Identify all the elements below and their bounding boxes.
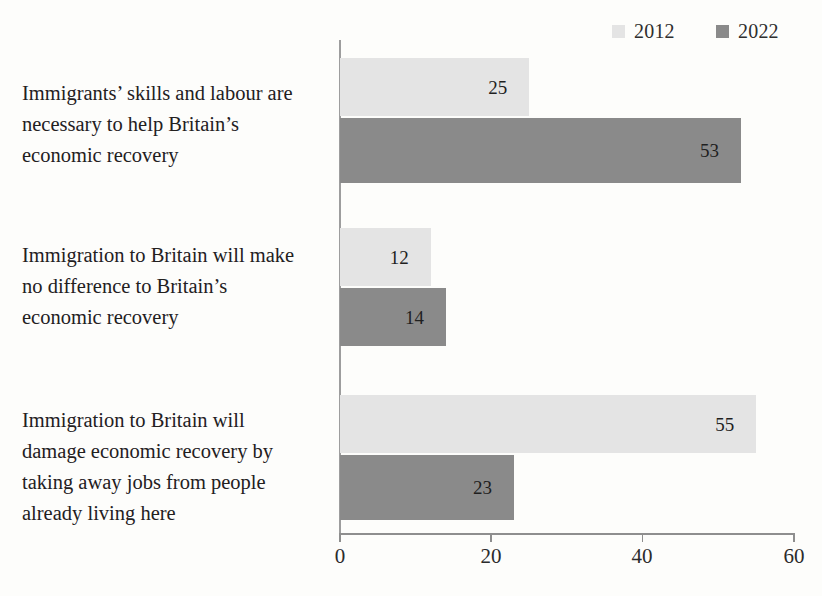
x-axis-line [339, 533, 794, 535]
category-label-2: Immigration to Britain will damage econo… [22, 405, 332, 529]
category-label-1-line-1: no difference to Britain’s [22, 271, 332, 302]
bar-value-2022-category-2: 23 [473, 478, 514, 497]
bar-2012-category-1: 12 [340, 228, 431, 286]
category-label-0-line-1: necessary to help Britain’s [22, 109, 332, 140]
category-label-2-line-1: damage economic recovery by [22, 436, 332, 467]
category-label-2-line-2: taking away jobs from people [22, 467, 332, 498]
plot-area: 0 20 40 60 25 53 12 14 55 23 [339, 40, 794, 535]
bar-2022-category-0: 53 [340, 118, 741, 183]
x-tick-0 [339, 533, 341, 542]
legend-label-2022: 2022 [738, 21, 779, 41]
category-label-1-line-2: economic recovery [22, 302, 332, 333]
legend-swatch-2022 [716, 25, 729, 38]
bar-chart: 2012 2022 Immigrants’ skills and labour … [0, 0, 822, 596]
bar-value-2012-category-2: 55 [715, 415, 756, 434]
legend-label-2012: 2012 [634, 21, 675, 41]
x-tick-label-2: 40 [632, 544, 653, 568]
x-tick-1 [490, 533, 492, 542]
x-tick-2 [642, 533, 644, 542]
category-label-0: Immigrants’ skills and labour are necess… [22, 78, 332, 171]
bar-value-2012-category-1: 12 [390, 248, 431, 267]
bar-2012-category-0: 25 [340, 58, 529, 116]
x-tick-label-3: 60 [784, 544, 805, 568]
bar-value-2022-category-1: 14 [405, 308, 446, 327]
category-label-2-line-0: Immigration to Britain will [22, 405, 332, 436]
x-tick-label-1: 20 [481, 544, 502, 568]
bar-2022-category-2: 23 [340, 455, 514, 520]
category-label-2-line-3: already living here [22, 498, 332, 529]
x-tick-3 [793, 533, 795, 542]
legend-swatch-2012 [612, 25, 625, 38]
bar-2022-category-1: 14 [340, 288, 446, 346]
category-label-1: Immigration to Britain will make no diff… [22, 240, 332, 333]
bar-value-2012-category-0: 25 [488, 78, 529, 97]
category-label-0-line-2: economic recovery [22, 140, 332, 171]
bar-value-2022-category-0: 53 [700, 141, 741, 160]
category-label-1-line-0: Immigration to Britain will make [22, 240, 332, 271]
bar-2012-category-2: 55 [340, 395, 756, 453]
x-tick-label-0: 0 [335, 544, 346, 568]
category-label-0-line-0: Immigrants’ skills and labour are [22, 78, 332, 109]
